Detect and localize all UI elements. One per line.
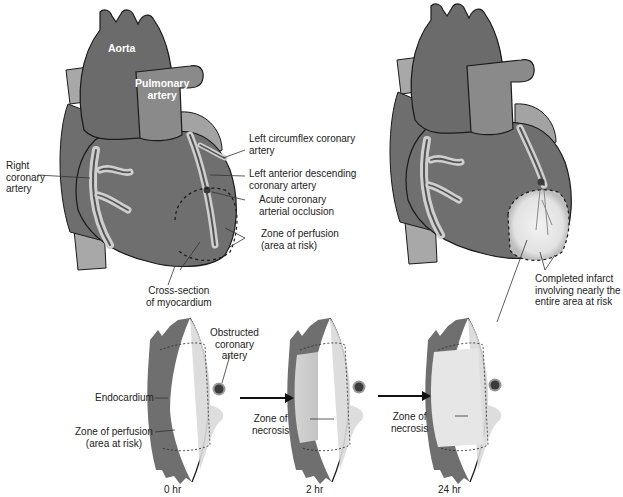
label-endocardium: Endocardium bbox=[95, 392, 154, 404]
label-acute-occlusion: Acute coronary arterial occlusion bbox=[259, 194, 334, 217]
label-pulmonary-artery: Pulmonary artery bbox=[135, 78, 189, 101]
label-time-2hr: 2 hr bbox=[306, 484, 323, 496]
label-completed-infarct: Completed infarct involving nearly the e… bbox=[535, 273, 621, 308]
label-aorta: Aorta bbox=[108, 43, 135, 55]
label-necrosis-2hr: Zone of necrosis bbox=[252, 413, 289, 436]
cross-section-2hr bbox=[287, 318, 365, 484]
cross-section-24hr bbox=[425, 318, 501, 484]
label-right-coronary-artery: Right coronary artery bbox=[6, 160, 45, 195]
label-cross-section: Cross-section of myocardium bbox=[146, 285, 212, 308]
label-necrosis-24hr: Zone of necrosis bbox=[391, 411, 428, 434]
heart-right bbox=[390, 4, 571, 264]
myocardial-infarction-diagram: Aorta Pulmonary artery Right coronary ar… bbox=[0, 0, 623, 497]
label-zone-of-perfusion-heart: Zone of perfusion (area at risk) bbox=[261, 228, 339, 251]
label-obstructed-artery: Obstructed coronary artery bbox=[210, 327, 259, 362]
label-left-anterior-descending: Left anterior descending coronary artery bbox=[249, 168, 356, 191]
label-zone-of-perfusion-section: Zone of perfusion (area at risk) bbox=[75, 426, 153, 449]
label-time-24hr: 24 hr bbox=[438, 484, 461, 496]
heart-left bbox=[60, 10, 237, 270]
label-time-0hr: 0 hr bbox=[164, 484, 181, 496]
label-left-circumflex: Left circumflex coronary artery bbox=[249, 133, 355, 156]
